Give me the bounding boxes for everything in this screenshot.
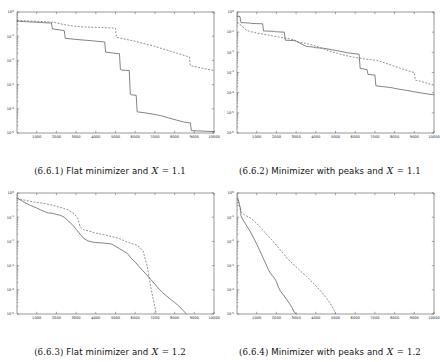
caption-text: Flat minimizer and xyxy=(66,166,148,176)
series-solid xyxy=(17,21,214,131)
series-solid xyxy=(237,198,296,314)
y-tick-label: 10-4 xyxy=(227,288,235,292)
series-solid xyxy=(237,16,434,95)
panel-6-6-2: 1000200030004000500060007000800090001000… xyxy=(220,0,440,181)
panel-6-6-4: 1000200030004000500060007000800090001000… xyxy=(220,181,440,362)
y-tick-label: 10-2 xyxy=(227,50,235,54)
x-tick-label: 6000 xyxy=(131,135,141,139)
y-tick-label: 10-4 xyxy=(227,91,235,95)
caption-text: Flat minimizer and xyxy=(66,347,148,357)
panel-6-6-1: 1000200030004000500060007000800090001000… xyxy=(0,0,220,181)
x-tick-label: 3000 xyxy=(72,316,82,320)
series-dashed xyxy=(17,198,157,314)
x-tick-label: 4000 xyxy=(91,316,101,320)
x-tick-label: 6000 xyxy=(131,316,141,320)
x-tick-label: 1000 xyxy=(252,316,262,320)
y-tick-label: 10-5 xyxy=(7,312,15,316)
plot-area-6-6-3: 1000200030004000500060007000800090001000… xyxy=(0,181,220,339)
y-tick-label: 10-1 xyxy=(7,34,15,38)
y-tick-label: 10-1 xyxy=(7,215,15,219)
y-tick-label: 10-1 xyxy=(227,30,235,34)
plot-svg-6-6-3: 1000200030004000500060007000800090001000… xyxy=(0,181,220,339)
y-tick-label: 100 xyxy=(8,191,15,195)
caption-variable: X xyxy=(386,346,394,357)
y-tick-label: 100 xyxy=(228,10,235,14)
x-tick-label: 10000 xyxy=(428,135,440,139)
axis-frame xyxy=(237,193,434,314)
caption-number: (6.6.1) xyxy=(34,166,63,176)
x-tick-label: 3000 xyxy=(292,135,302,139)
x-tick-label: 5000 xyxy=(111,135,121,139)
x-tick-label: 7000 xyxy=(150,316,160,320)
y-tick-label: 10-3 xyxy=(227,70,235,74)
panel-6-6-3: 1000200030004000500060007000800090001000… xyxy=(0,181,220,362)
y-tick-label: 10-1 xyxy=(227,215,235,219)
series-dashed xyxy=(237,198,335,314)
x-tick-label: 2000 xyxy=(272,135,282,139)
x-tick-label: 4000 xyxy=(311,135,321,139)
caption-variable: X xyxy=(386,165,394,176)
x-tick-label: 1000 xyxy=(32,316,42,320)
y-tick-label: 10-2 xyxy=(7,58,15,62)
x-tick-label: 8000 xyxy=(170,135,180,139)
y-tick-label: 10-5 xyxy=(227,111,235,115)
y-tick-label: 10-3 xyxy=(7,83,15,87)
axis-frame xyxy=(237,12,434,133)
x-tick-label: 5000 xyxy=(111,316,121,320)
axis-frame xyxy=(17,193,214,314)
caption-number: (6.6.4) xyxy=(239,347,268,357)
x-tick-label: 9000 xyxy=(410,316,420,320)
x-tick-label: 10000 xyxy=(208,316,220,320)
x-tick-label: 9000 xyxy=(190,135,200,139)
x-tick-label: 2000 xyxy=(52,316,62,320)
caption-number: (6.6.2) xyxy=(239,166,268,176)
x-tick-label: 5000 xyxy=(331,135,341,139)
caption-value: = 1.1 xyxy=(397,166,421,176)
plot-svg-6-6-1: 1000200030004000500060007000800090001000… xyxy=(0,0,220,158)
series-solid xyxy=(17,198,186,314)
plot-svg-6-6-2: 1000200030004000500060007000800090001000… xyxy=(220,0,440,158)
y-tick-label: 10-5 xyxy=(227,312,235,316)
series-dashed xyxy=(17,20,214,70)
x-tick-label: 2000 xyxy=(52,135,62,139)
caption-value: = 1.1 xyxy=(162,166,186,176)
y-tick-label: 10-5 xyxy=(7,131,15,135)
x-tick-label: 1000 xyxy=(32,135,42,139)
panel-caption-6-6-3: (6.6.3) Flat minimizer and X = 1.2 xyxy=(0,346,220,358)
caption-number: (6.6.3) xyxy=(34,347,63,357)
x-tick-label: 6000 xyxy=(351,316,361,320)
x-tick-label: 4000 xyxy=(311,316,321,320)
x-tick-label: 4000 xyxy=(91,135,101,139)
plot-area-6-6-1: 1000200030004000500060007000800090001000… xyxy=(0,0,220,158)
y-tick-label: 100 xyxy=(228,191,235,195)
x-tick-label: 6000 xyxy=(351,135,361,139)
x-tick-label: 3000 xyxy=(72,135,82,139)
panel-caption-6-6-2: (6.6.2) Minimizer with peaks and X = 1.1 xyxy=(220,165,440,177)
x-tick-label: 8000 xyxy=(390,135,400,139)
caption-value: = 1.2 xyxy=(162,347,186,357)
x-tick-label: 5000 xyxy=(331,316,341,320)
x-tick-label: 8000 xyxy=(390,316,400,320)
x-tick-label: 7000 xyxy=(370,135,380,139)
y-tick-label: 10-2 xyxy=(227,239,235,243)
panel-caption-6-6-4: (6.6.4) Minimizer with peaks and X = 1.2 xyxy=(220,346,440,358)
x-tick-label: 10000 xyxy=(428,316,440,320)
x-tick-label: 9000 xyxy=(190,316,200,320)
y-tick-label: 10-4 xyxy=(7,107,15,111)
y-tick-label: 10-3 xyxy=(7,264,15,268)
y-tick-label: 10-3 xyxy=(227,264,235,268)
x-tick-label: 8000 xyxy=(170,316,180,320)
plot-svg-6-6-4: 1000200030004000500060007000800090001000… xyxy=(220,181,440,339)
x-tick-label: 2000 xyxy=(272,316,282,320)
y-tick-label: 10-6 xyxy=(227,131,235,135)
x-tick-label: 10000 xyxy=(208,135,220,139)
plot-area-6-6-4: 1000200030004000500060007000800090001000… xyxy=(220,181,440,339)
y-tick-label: 100 xyxy=(8,10,15,14)
y-tick-label: 10-4 xyxy=(7,288,15,292)
caption-variable: X xyxy=(151,165,159,176)
caption-text: Minimizer with peaks and xyxy=(271,166,383,176)
y-tick-label: 10-2 xyxy=(7,239,15,243)
axis-frame xyxy=(17,12,214,133)
x-tick-label: 7000 xyxy=(150,135,160,139)
x-tick-label: 7000 xyxy=(370,316,380,320)
